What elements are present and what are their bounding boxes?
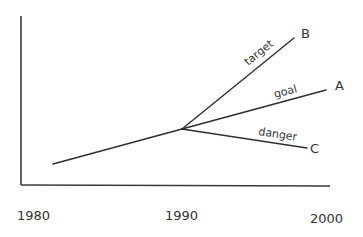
endpoint-a-label: A — [335, 78, 344, 93]
tick-1980: 1980 — [17, 208, 50, 223]
tick-1990: 1990 — [165, 208, 198, 223]
endpoint-b-label: B — [301, 26, 310, 41]
x-axis — [21, 185, 330, 186]
scenario-diagram: target goal danger B A C 1980 1990 2000 — [0, 0, 363, 237]
target-label: target — [242, 37, 277, 69]
tick-2000: 2000 — [310, 211, 343, 226]
target-line — [182, 38, 294, 129]
history-line — [53, 129, 182, 164]
endpoint-c-label: C — [310, 141, 319, 156]
goal-line — [182, 90, 326, 129]
